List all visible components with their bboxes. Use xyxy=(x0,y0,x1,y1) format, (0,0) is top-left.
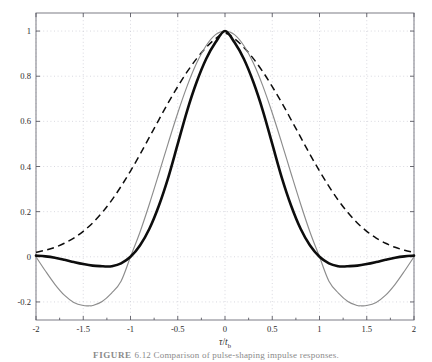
caption-number: 6.12 xyxy=(135,350,154,360)
chart-canvas: -2-1.5-1-0.500.511.52-0.200.20.40.60.81 … xyxy=(0,0,432,362)
x-tick-label-5: 0.5 xyxy=(267,324,278,334)
tick-label-group: -2-1.5-1-0.500.511.52-0.200.20.40.60.81 xyxy=(17,26,416,333)
y-tick-label-3: 0.4 xyxy=(20,162,31,172)
y-tick-label-1: 0 xyxy=(27,252,31,262)
caption-prefix: FIGURE xyxy=(93,350,134,360)
grid-group xyxy=(36,13,414,320)
x-tick-label-0: -2 xyxy=(32,324,39,334)
x-axis-title-subscript: b xyxy=(228,342,232,349)
x-tick-label-1: -1.5 xyxy=(76,324,90,334)
x-axis-title: τ/tb xyxy=(219,337,232,349)
x-tick-label-6: 1 xyxy=(317,324,321,334)
x-tick-label-8: 2 xyxy=(412,324,416,334)
curve-raised-cosine-thick-black xyxy=(36,31,414,267)
y-tick-label-5: 0.8 xyxy=(20,71,31,81)
x-tick-label-3: -0.5 xyxy=(171,324,185,334)
x-tick-label-7: 1.5 xyxy=(361,324,372,334)
x-tick-label-4: 0 xyxy=(223,324,227,334)
y-tick-label-4: 0.6 xyxy=(20,116,31,126)
x-axis-title-text: τ/tb xyxy=(219,337,232,349)
y-tick-label-6: 1 xyxy=(27,26,31,36)
figure-caption: FIGURE 6.12 Comparison of pulse-shaping … xyxy=(93,350,339,360)
x-tick-label-2: -1 xyxy=(127,324,134,334)
y-tick-label-0: -0.2 xyxy=(17,297,31,307)
caption-body: Comparison of pulse-shaping impulse resp… xyxy=(154,350,339,360)
caption-line-text: FIGURE 6.12 Comparison of pulse-shaping … xyxy=(93,350,339,360)
y-tick-label-2: 0.2 xyxy=(20,207,31,217)
figure-container: -2-1.5-1-0.500.511.52-0.200.20.40.60.81 … xyxy=(0,0,432,362)
